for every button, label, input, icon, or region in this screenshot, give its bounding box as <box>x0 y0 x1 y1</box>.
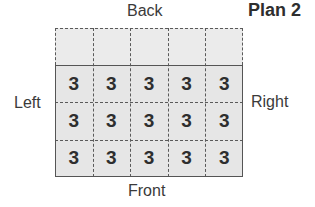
right-label: Right <box>251 93 288 111</box>
plan-grid: 3 3 3 3 3 3 3 3 3 3 3 3 3 3 3 <box>55 28 243 177</box>
grid-cell <box>55 28 93 65</box>
plan-title: Plan 2 <box>248 0 301 21</box>
grid-cell <box>130 28 168 65</box>
filled-region-outline <box>55 65 243 177</box>
left-label: Left <box>14 94 41 112</box>
grid-cell <box>205 28 243 65</box>
grid-cell <box>93 28 131 65</box>
grid-cell <box>168 28 206 65</box>
grid-line <box>55 28 56 65</box>
front-label: Front <box>128 182 165 200</box>
grid-line <box>55 28 243 29</box>
back-label: Back <box>127 2 163 20</box>
grid-line <box>242 28 243 65</box>
